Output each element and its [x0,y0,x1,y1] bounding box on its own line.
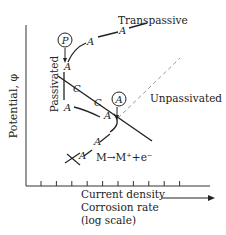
increasing-right-arrow-icon [161,195,215,201]
anodic-segment-rise [68,43,86,62]
anodic-segment-back [74,107,100,117]
anodic-marker: A [78,150,86,161]
unpassivated-dashed-line [118,58,180,118]
cathodic-marker: C [73,83,81,94]
anodic-marker: A [93,136,101,147]
svg-text:A: A [114,94,122,105]
anodic-marker: A [63,61,71,72]
anodic-marker: A [103,110,111,121]
anodic-segment-transpassive-1 [98,32,118,37]
anodic-marker: A [118,25,126,36]
x-axis-label-line-1: Current density [81,188,165,200]
anodic-segment-active-mid [100,134,110,142]
active-point-marker: A [112,92,126,120]
cross-mark-icon [65,153,80,165]
passivated-label: Passivated [48,56,60,113]
anodic-marker: A [86,36,94,47]
x-axis-label-line-2: Corrosion rate [81,201,159,213]
y-axis-label: Potential, φ [7,74,20,139]
x-axis-ticks [41,181,180,186]
diagram-canvas: Potential, φ Current density Corrosion r… [0,0,226,235]
x-axis-label-line-3: (log scale) [81,214,136,226]
svg-text:P: P [61,35,69,46]
polarization-diagram: Potential, φ Current density Corrosion r… [0,0,226,235]
transpassive-label: Transpassive [118,14,188,26]
reaction-equation: M→M⁺+e⁻ [96,151,152,163]
anodic-marker: A [63,102,71,113]
cathodic-marker: C [94,97,102,108]
unpassivated-label: Unpassivated [150,92,222,104]
